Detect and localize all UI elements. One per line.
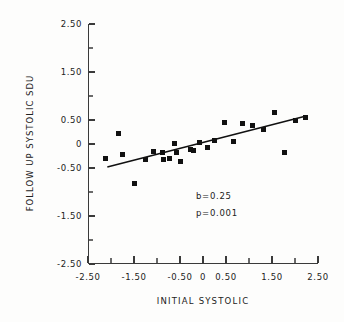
data-point [178,159,183,164]
y-tick-label: 0 [36,139,82,149]
x-tick-label: 1.50 [249,272,295,282]
x-tick-label: -2.50 [65,272,111,282]
data-point [116,131,121,136]
y-tick-label: -2.50 [36,259,82,269]
data-point [272,110,277,115]
data-point [191,148,196,153]
y-tick-label: 1.50 [36,67,82,77]
data-point [172,141,177,146]
y-axis-title: FOLLOW UP SYSTOLIC SDU [25,33,35,253]
regression-line [88,24,318,264]
x-tick-label: 0.50 [203,272,249,282]
x-tick-label: 2.50 [295,272,341,282]
y-tick-label: 0.50 [36,115,82,125]
data-point [205,145,210,150]
statistics-annotation: b=0.25 p=0.001 [196,188,238,222]
y-tick-label: -1.50 [36,211,82,221]
data-point [212,138,217,143]
data-point [303,115,308,120]
data-point [160,150,165,155]
data-point [120,152,125,157]
data-point [261,127,266,132]
annotation-p: p=0.001 [196,205,238,222]
annotation-b: b=0.25 [196,188,238,205]
data-point [151,149,156,154]
plot-area [88,24,318,264]
y-tick-label: -0.50 [36,163,82,173]
data-point [197,140,202,145]
data-point [143,157,148,162]
data-point [250,123,255,128]
y-tick-label: 2.50 [36,19,82,29]
data-point [103,156,108,161]
data-point [282,150,287,155]
data-point [293,118,298,123]
x-axis-title: INITIAL SYSTOLIC [88,296,318,306]
data-point [240,121,245,126]
data-point [132,181,137,186]
scatter-plot-figure: FOLLOW UP SYSTOLIC SDU INITIAL SYSTOLIC … [0,0,344,322]
x-tick-label: -1.50 [111,272,157,282]
data-point [161,157,166,162]
data-point [167,156,172,161]
data-point [231,139,236,144]
data-point [174,150,179,155]
data-point [222,120,227,125]
